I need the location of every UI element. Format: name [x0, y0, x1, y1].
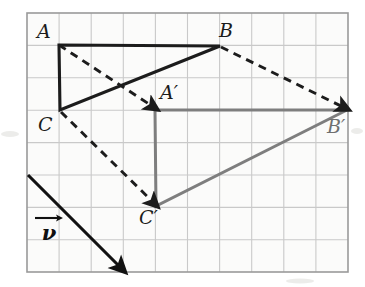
label-b: B	[219, 21, 233, 40]
label-c: C	[38, 115, 53, 134]
label-a-prime: A′	[160, 83, 178, 102]
label-b-prime: B′	[327, 117, 345, 136]
vector-overbar-arrow-icon	[34, 213, 64, 222]
translation-diagram: A B C A′ B′ C′ ν	[0, 0, 365, 287]
label-c-prime: C′	[139, 208, 158, 227]
label-a: A	[37, 22, 51, 41]
label-vector-v: ν	[34, 213, 64, 243]
vector-name: ν	[34, 222, 64, 243]
